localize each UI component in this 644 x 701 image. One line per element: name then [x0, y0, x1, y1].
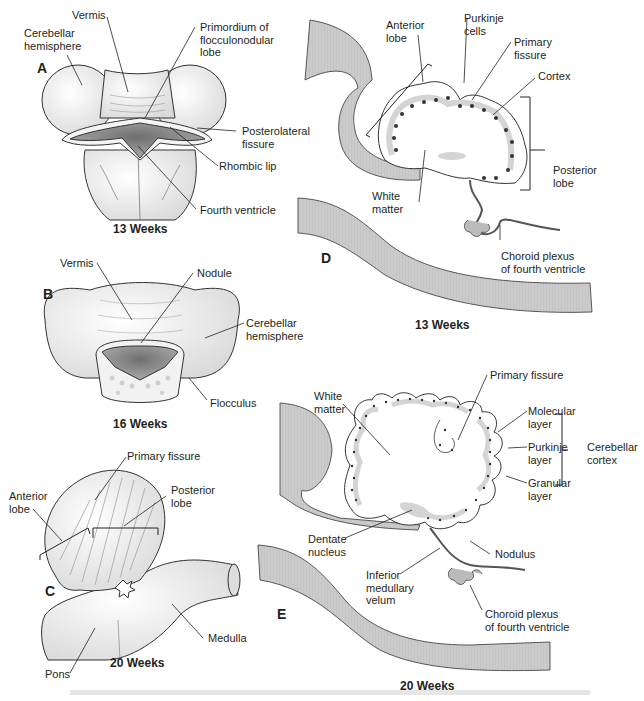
label-e-cerebellar-cortex: Cerebellar cortex	[587, 441, 638, 466]
label-e-dentate-nucleus: Dentate nucleus	[308, 533, 347, 558]
label-e-choroid-plexus: Choroid plexus of fourth ventricle	[485, 608, 569, 633]
label-a-vermis: Vermis	[72, 9, 106, 22]
label-a-rhombic-lip: Rhombic lip	[219, 160, 276, 173]
panel-letter-d: D	[321, 250, 331, 266]
diagram-artwork	[0, 0, 644, 701]
illegible-figure-caption-strip	[70, 690, 590, 695]
label-e-purkinje-layer: Purkinje layer	[528, 441, 568, 466]
label-e-nodulus: Nodulus	[495, 548, 535, 561]
label-d-cortex: Cortex	[538, 70, 570, 83]
label-c-primary-fissure: Primary fissure	[127, 450, 200, 463]
label-d-white-matter: White matter	[372, 190, 403, 215]
label-d-choroid-plexus: Choroid plexus of fourth ventricle	[501, 250, 585, 275]
label-b-cerebellar-hemisphere: Cerebellar hemisphere	[246, 317, 303, 342]
caption-panel-b: 16 Weeks	[113, 417, 168, 431]
label-b-flocculus: Flocculus	[210, 397, 256, 410]
caption-panel-a: 13 Weeks	[113, 222, 168, 236]
label-a-posterolateral-fissure: Posterolateral fissure	[242, 125, 310, 150]
label-a-fourth-ventricle: Fourth ventricle	[200, 204, 276, 217]
panel-letter-e: E	[277, 606, 286, 622]
label-a-primordium-flocculonodular-lobe: Primordium of flocculonodular lobe	[200, 21, 274, 59]
label-e-inferior-medullary-velum: Inferior medullary velum	[366, 569, 414, 607]
panel-letter-b: B	[43, 286, 53, 302]
panel-a-illustration	[42, 65, 226, 220]
label-d-posterior-lobe: Posterior lobe	[553, 164, 597, 189]
panel-letter-a: A	[37, 60, 47, 76]
panel-letter-c: C	[45, 583, 55, 599]
caption-panel-d: 13 Weeks	[415, 318, 470, 332]
label-c-pons: Pons	[45, 668, 70, 681]
label-a-cerebellar-hemisphere: Cerebellar hemisphere	[24, 27, 81, 52]
label-d-anterior-lobe: Anterior lobe	[386, 19, 425, 44]
label-e-molecular-layer: Molecular layer	[528, 405, 576, 430]
caption-panel-c: 20 Weeks	[110, 656, 165, 670]
label-b-vermis: Vermis	[60, 257, 94, 270]
label-c-medulla: Medulla	[208, 632, 247, 645]
label-c-anterior-lobe: Anterior lobe	[9, 490, 48, 515]
label-c-posterior-lobe: Posterior lobe	[171, 484, 215, 509]
label-d-primary-fissure: Primary fissure	[514, 36, 552, 61]
label-e-granular-layer: Granular layer	[528, 477, 571, 502]
label-e-primary-fissure: Primary fissure	[490, 369, 563, 382]
label-e-white-matter: White matter	[314, 390, 345, 415]
label-d-purkinje-cells: Purkinje cells	[464, 12, 504, 37]
label-b-nodule: Nodule	[197, 267, 232, 280]
